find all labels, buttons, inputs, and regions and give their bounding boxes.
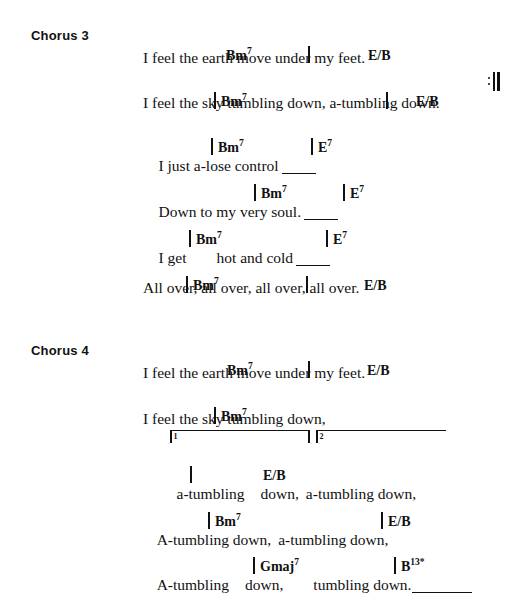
chord-row: Bm7 bbox=[195, 120, 244, 140]
volta-number: 2 bbox=[320, 433, 324, 441]
lyric-text: hot and cold bbox=[216, 249, 293, 266]
volta-bracket-2: 2 bbox=[316, 430, 446, 443]
chord-symbol: E7 bbox=[333, 232, 347, 247]
barline-glyph bbox=[343, 184, 345, 201]
chord-row: Bm7 bbox=[210, 28, 252, 48]
barline-glyph bbox=[290, 258, 308, 278]
lyric-line: I feel the earth move under my feet. bbox=[143, 50, 365, 66]
chord-row: Bm7 bbox=[192, 494, 241, 514]
chord-symbol: E/B bbox=[367, 363, 390, 378]
chord-row: Bm7 bbox=[211, 343, 253, 363]
chord-row: E/B bbox=[247, 448, 286, 468]
chord-row: Gmaj7 bbox=[237, 539, 299, 559]
volta-bracket-1: 1 bbox=[170, 430, 310, 443]
lyric-text: down, bbox=[245, 576, 283, 593]
chord-symbol: E7 bbox=[318, 140, 332, 155]
chord-row: Bm7 bbox=[170, 258, 219, 278]
barline-glyph bbox=[292, 343, 310, 363]
chord-symbol: E/B bbox=[368, 48, 391, 63]
lyric-line: All over, all over, all over, all over. bbox=[143, 280, 359, 296]
lyric-line: A-tumblingdown,tumbling down. bbox=[142, 561, 472, 597]
lyric-line: I just a-lose control bbox=[143, 142, 316, 189]
barline-glyph bbox=[174, 448, 192, 468]
chord-row: E7 bbox=[295, 120, 332, 140]
chord-row: E7 bbox=[327, 166, 364, 186]
chord-row: E7 bbox=[310, 212, 347, 232]
volta-number: 1 bbox=[174, 433, 178, 441]
barline-glyph bbox=[292, 28, 310, 48]
lyric-text: A-tumbling bbox=[157, 576, 229, 593]
chord-row: E/B bbox=[400, 74, 439, 94]
section-label-chorus-4: Chorus 4 bbox=[31, 343, 89, 358]
repeat-sign-icon bbox=[488, 72, 501, 91]
chord-row: Bm7 bbox=[238, 166, 287, 186]
chord-row: E/B bbox=[352, 28, 391, 48]
chord-row: Bm7 bbox=[198, 389, 247, 409]
chord-row: E/B bbox=[365, 494, 411, 514]
barline-glyph bbox=[370, 74, 388, 94]
chord-row: E/B bbox=[348, 258, 387, 278]
chord-symbol: E7 bbox=[350, 186, 364, 201]
chord-symbol: E/B bbox=[364, 278, 387, 293]
hold-underscore bbox=[412, 592, 472, 593]
chord-row: B13* bbox=[378, 539, 425, 559]
lyric-line: I feel the sky tumbling down, a-tumbling… bbox=[143, 95, 440, 111]
lyric-text: tumbling down. bbox=[313, 576, 411, 593]
section-label-chorus-3: Chorus 3 bbox=[31, 28, 89, 43]
chord-row: Bm7 bbox=[173, 212, 222, 232]
lyric-line: I feel the earth move under my feet. bbox=[143, 365, 365, 381]
chord-row: Bm7 bbox=[198, 74, 247, 94]
lyric-line: I feel the sky tumbling down, bbox=[143, 411, 326, 427]
lyric-text: down, bbox=[261, 485, 299, 502]
chord-symbol: E/B bbox=[388, 514, 411, 529]
chord-row: E/B bbox=[351, 343, 390, 363]
